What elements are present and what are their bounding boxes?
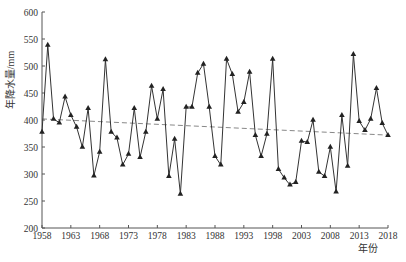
triangle-marker-icon <box>264 131 270 136</box>
triangle-marker-icon <box>62 94 68 99</box>
y-tick-label: 300 <box>24 170 39 180</box>
triangle-marker-icon <box>299 138 305 143</box>
triangle-marker-icon <box>51 116 57 121</box>
triangle-marker-icon <box>74 124 80 129</box>
triangle-marker-icon <box>91 172 97 177</box>
trend-line <box>42 119 388 135</box>
triangle-marker-icon <box>155 116 161 121</box>
triangle-marker-icon <box>120 162 126 167</box>
triangle-marker-icon <box>339 112 345 117</box>
x-tick-label: 1983 <box>177 231 196 241</box>
triangle-marker-icon <box>85 105 91 110</box>
triangle-marker-icon <box>322 173 328 178</box>
x-tick-label: 1958 <box>33 231 52 241</box>
triangle-marker-icon <box>212 153 218 158</box>
precipitation-line <box>42 45 388 194</box>
triangle-marker-icon <box>201 61 207 66</box>
triangle-marker-icon <box>131 105 137 110</box>
triangle-marker-icon <box>258 153 264 158</box>
triangle-marker-icon <box>183 104 189 109</box>
x-tick-label: 1968 <box>90 231 109 241</box>
triangle-marker-icon <box>247 69 253 74</box>
triangle-marker-icon <box>385 132 391 137</box>
triangle-marker-icon <box>149 83 155 88</box>
triangle-marker-icon <box>356 118 362 123</box>
trend-line-path <box>42 119 388 135</box>
x-tick-label: 2013 <box>350 231 369 241</box>
x-tick-label: 1998 <box>263 231 282 241</box>
triangle-marker-icon <box>172 136 178 141</box>
triangle-marker-icon <box>206 104 212 109</box>
chart-canvas: 2002503003504004505005506001958196319681… <box>0 0 406 262</box>
triangle-marker-icon <box>97 149 103 154</box>
y-tick-label: 250 <box>24 197 39 207</box>
triangle-marker-icon <box>143 129 149 134</box>
triangle-marker-icon <box>80 144 86 149</box>
triangle-marker-icon <box>310 117 316 122</box>
x-tick-label: 1978 <box>148 231 167 241</box>
x-tick-label: 2018 <box>379 231 398 241</box>
triangle-marker-icon <box>45 42 51 47</box>
y-tick-label: 450 <box>24 89 39 99</box>
precipitation-chart: 2002503003504004505005506001958196319681… <box>0 0 406 262</box>
triangle-marker-icon <box>68 112 74 117</box>
y-tick-label: 550 <box>24 35 39 45</box>
x-tick-label: 1993 <box>234 231 253 241</box>
triangle-marker-icon <box>270 56 276 61</box>
x-axis-label: 年份 <box>358 242 378 254</box>
y-tick-label: 400 <box>24 116 39 126</box>
x-tick-label: 1963 <box>61 231 80 241</box>
triangle-marker-icon <box>374 85 380 90</box>
triangle-marker-icon <box>333 189 339 194</box>
triangle-marker-icon <box>351 51 357 56</box>
triangle-marker-icon <box>126 151 132 156</box>
triangle-marker-icon <box>230 71 236 76</box>
triangle-marker-icon <box>178 191 184 196</box>
triangle-marker-icon <box>379 120 385 125</box>
triangle-marker-icon <box>328 144 334 149</box>
triangle-marker-icon <box>166 173 172 178</box>
triangle-marker-icon <box>224 56 230 61</box>
triangle-marker-icon <box>276 166 282 171</box>
triangle-marker-icon <box>241 99 247 104</box>
triangle-marker-icon <box>368 116 374 121</box>
triangle-marker-icon <box>39 129 45 134</box>
y-axis-label: 年降水量/mm <box>4 51 16 110</box>
x-tick-label: 2003 <box>292 231 311 241</box>
triangle-marker-icon <box>316 169 322 174</box>
x-tick-label: 1988 <box>206 231 225 241</box>
x-tick-label: 2008 <box>321 231 340 241</box>
x-tick-label: 1973 <box>119 231 138 241</box>
y-tick-label: 350 <box>24 143 39 153</box>
triangle-marker-icon <box>160 86 166 91</box>
y-tick-label: 500 <box>24 62 39 72</box>
triangle-marker-icon <box>137 154 143 159</box>
triangle-marker-icon <box>103 56 109 61</box>
triangle-marker-icon <box>293 179 299 184</box>
triangle-marker-icon <box>345 163 351 168</box>
data-series <box>39 42 391 196</box>
triangle-marker-icon <box>189 104 195 109</box>
y-tick-label: 600 <box>24 8 39 18</box>
triangle-marker-icon <box>253 132 259 137</box>
triangle-marker-icon <box>108 129 114 134</box>
